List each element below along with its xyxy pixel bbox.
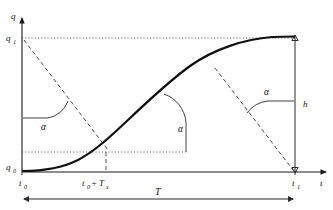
figure-container: q q 1 q 0 t 0 t 0 + T з t 1 t α α α h T <box>0 0 333 210</box>
right-tangent-dashed-line <box>215 68 293 170</box>
angle-label-right: α <box>264 87 270 97</box>
y-axis-label: q <box>11 11 16 21</box>
span-arrow-right <box>288 196 294 202</box>
x-tick-label-inflection-term-sub: з <box>105 183 109 190</box>
left-tangent-dashed-line <box>24 40 108 150</box>
x-tick-label-t1-sub: 1 <box>297 183 300 190</box>
y-tick-label-q1: q <box>6 33 11 43</box>
angle-label-middle: α <box>178 124 184 134</box>
x-tick-label-inflection-base: t <box>82 178 85 188</box>
angle-label-left: α <box>41 122 47 132</box>
right-angle-arc <box>247 101 268 113</box>
diagram-svg: q q 1 q 0 t 0 t 0 + T з t 1 t α α α h T <box>0 0 333 210</box>
y-tick-label-q0-sub: 0 <box>13 167 17 174</box>
span-arrow-left <box>23 196 29 202</box>
y-tick-label-q1-sub: 1 <box>13 38 16 45</box>
height-label: h <box>303 99 308 109</box>
span-label: T <box>155 186 162 197</box>
y-axis-arrowhead <box>19 17 25 24</box>
transition-curve <box>23 37 294 172</box>
middle-angle-arc <box>164 94 186 122</box>
x-axis-label: t <box>320 178 323 188</box>
x-tick-label-t1: t <box>292 178 295 188</box>
x-tick-label-t0: t <box>19 178 22 188</box>
x-tick-label-inflection-term: T <box>99 178 105 188</box>
x-tick-label-t0-sub: 0 <box>24 183 28 190</box>
x-tick-label-inflection-op: + <box>91 178 97 188</box>
y-tick-label-q0: q <box>6 162 11 172</box>
left-angle-arc <box>48 101 68 118</box>
x-axis-arrowhead <box>321 169 328 175</box>
